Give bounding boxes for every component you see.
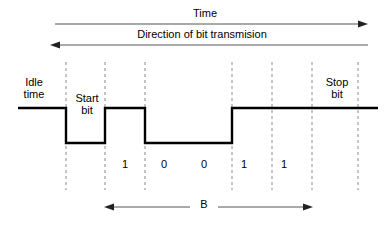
bit-value: 0 [156, 158, 172, 170]
bit-value: 1 [276, 158, 292, 170]
time-label: Time [175, 7, 235, 19]
direction-label: Direction of bit transmision [117, 28, 287, 40]
bit-value: 1 [236, 158, 252, 170]
span-b-label: B [193, 198, 215, 210]
start-bit-label: Start bit [68, 92, 106, 116]
bit-value: 1 [117, 158, 133, 170]
bit-boundary-guides [66, 62, 358, 190]
serial-transmission-diagram: Time Direction of bit transmision Idle t… [0, 0, 385, 231]
bit-value: 0 [196, 158, 212, 170]
direction-arrow [50, 42, 368, 49]
time-axis-arrow [55, 21, 368, 28]
idle-time-label: Idle time [8, 76, 60, 100]
stop-bit-label: Stop bit [317, 76, 357, 100]
